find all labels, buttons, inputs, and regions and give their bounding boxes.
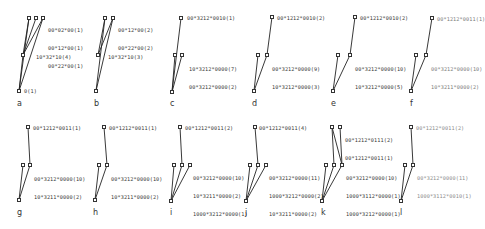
tree-node <box>17 198 21 202</box>
node-label: 00*3212*0000(10) <box>34 176 86 182</box>
tree-node <box>34 16 38 20</box>
node-label: 00*12*00(2) <box>118 27 153 33</box>
node-label: 00*3212*0000(10) <box>431 66 483 72</box>
tree-node <box>180 163 184 167</box>
node-label: 00*1212*0010(2) <box>277 15 325 21</box>
tree-node <box>26 125 30 129</box>
tree-node <box>41 16 45 20</box>
tree-node <box>331 89 335 93</box>
node-label: 00*3212*0000(10) <box>111 176 163 182</box>
node-label: 00*1212*0011(2) <box>416 125 464 131</box>
tree-node <box>172 163 176 167</box>
node-label: 00*1212*0011(1) <box>33 125 81 131</box>
tree-node <box>338 125 342 129</box>
tree-node <box>256 53 260 57</box>
tree-node <box>409 89 413 93</box>
node-label: 10*3212*0000(3) <box>272 84 320 90</box>
tree-node <box>180 53 184 57</box>
node-label: 00*02*00(1) <box>48 27 83 33</box>
tree-node <box>97 163 101 167</box>
tree-node <box>256 163 260 167</box>
tree-node <box>403 163 407 167</box>
panel-letter: b <box>94 99 99 108</box>
tree-node <box>252 89 256 93</box>
tree-node <box>179 16 183 20</box>
panel-letter: g <box>17 208 22 217</box>
node-label: 10*3211*0000(2) <box>111 194 163 200</box>
tree-node <box>188 163 192 167</box>
tree-node <box>336 53 340 57</box>
tree-node <box>353 15 357 19</box>
node-label: 10*3211*0000(2) <box>34 194 86 200</box>
tree-node <box>348 53 352 57</box>
node-label: 0(1) <box>24 88 37 94</box>
tree-node <box>170 90 174 94</box>
node-label: 1000*3112*0010(1) <box>417 193 472 199</box>
panel-letter: l <box>400 208 402 217</box>
node-label: 10*3211*0000(2) <box>269 211 324 217</box>
tree-node <box>173 53 177 57</box>
node-label: 10*3211*0000(2) <box>193 193 248 199</box>
tree-node <box>320 199 324 203</box>
tree-node <box>96 53 100 57</box>
tree-node <box>270 15 274 19</box>
tree-node <box>21 163 25 167</box>
node-label: 00*3212*0000(9) <box>272 66 320 72</box>
node-label: 1000*3212*0000(2) <box>269 193 324 199</box>
node-label: 00*1212*0011(1) <box>109 125 157 131</box>
node-label: 00*22*00(1) <box>48 63 83 69</box>
node-label: 00*3212*0010(1) <box>187 15 235 21</box>
tree-node <box>105 163 109 167</box>
node-label: 1000*3112*0000(1) <box>346 193 401 199</box>
tree-node <box>414 53 418 57</box>
tree-node <box>17 89 21 93</box>
node-label: 00*1212*0111(2) <box>345 137 393 143</box>
node-label: 00*1212*0011(1) <box>345 155 393 161</box>
node-label: 10*3211*0000(2) <box>431 84 483 90</box>
tree-node <box>93 198 97 202</box>
tree-node <box>330 125 334 129</box>
tree-node <box>340 163 344 167</box>
node-label: 10*32*10(3) <box>108 54 143 60</box>
node-label: 1000*3212*0000(1) <box>346 211 401 217</box>
tree-node <box>21 53 25 57</box>
panel-letter: j <box>245 208 247 217</box>
panel-letter: h <box>93 208 98 217</box>
tree-node <box>248 163 252 167</box>
node-label: 10*3212*0000(7) <box>189 66 237 72</box>
node-label: 00*1212*0010(2) <box>360 15 408 21</box>
panel-letter: f <box>410 99 413 108</box>
node-label: 00*3212*0000(10) <box>346 175 401 181</box>
node-label: 00*3212*0000(10) <box>193 175 248 181</box>
tree-node <box>411 163 415 167</box>
panel-letter: e <box>331 99 336 108</box>
tree-node <box>253 125 257 129</box>
tree-node <box>28 163 32 167</box>
tree-node <box>111 16 115 20</box>
node-label: 00*3212*0000(11) <box>417 175 472 181</box>
node-label: 00*3212*0000(10) <box>355 66 407 72</box>
node-label: 00*3212*0000(2) <box>189 84 237 90</box>
panel-letter: a <box>17 99 22 108</box>
tree-node <box>178 125 182 129</box>
tree-node <box>27 16 31 20</box>
tree-node <box>244 199 248 203</box>
tree-node <box>264 163 268 167</box>
tree-node <box>399 199 403 203</box>
tree-node <box>103 16 107 20</box>
panel-letter: c <box>170 99 174 108</box>
node-label: 00*22*00(2) <box>118 45 153 51</box>
node-label: 00*1212*0011(1) <box>437 16 485 22</box>
tree-node <box>324 163 328 167</box>
panel-letter: d <box>252 99 257 108</box>
tree-node <box>409 125 413 129</box>
tree-node <box>430 16 434 20</box>
tree-node <box>169 199 173 203</box>
node-label: 00*1212*0011(2) <box>185 125 233 131</box>
panel-letter: k <box>321 208 326 217</box>
tree-node <box>332 163 336 167</box>
node-label: 10*32*10(4) <box>36 54 71 60</box>
panel-letter: i <box>170 208 172 217</box>
node-label: 1000*3212*0000(1) <box>193 211 248 217</box>
node-label: 10*3212*0000(5) <box>355 84 407 90</box>
